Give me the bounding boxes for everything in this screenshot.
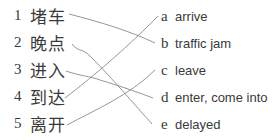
item-letter: a bbox=[161, 8, 175, 25]
left-item-3: 3 进入 bbox=[14, 57, 66, 81]
chinese-term: 堵车 bbox=[30, 3, 66, 28]
left-item-5: 5 离开 bbox=[14, 111, 66, 135]
right-item-d: d enter, come into bbox=[161, 86, 268, 108]
item-number: 5 bbox=[14, 115, 30, 132]
match-line-4-a bbox=[65, 16, 158, 98]
match-line-3-d bbox=[66, 71, 153, 98]
chinese-term: 离开 bbox=[30, 111, 66, 136]
left-item-4: 4 到达 bbox=[14, 84, 66, 108]
item-letter: d bbox=[161, 89, 175, 106]
matching-exercise: 1 堵车 2 晚点 3 进入 4 到达 5 离开 a arrive b traf… bbox=[0, 0, 278, 140]
item-letter: e bbox=[161, 116, 175, 133]
item-letter: b bbox=[161, 35, 175, 52]
chinese-term: 到达 bbox=[30, 84, 66, 109]
right-item-b: b traffic jam bbox=[161, 32, 231, 54]
chinese-term: 晚点 bbox=[30, 30, 66, 55]
item-letter: c bbox=[161, 62, 175, 79]
english-meaning: arrive bbox=[175, 9, 208, 24]
match-line-1-b bbox=[69, 14, 155, 43]
right-item-e: e delayed bbox=[161, 113, 221, 135]
item-number: 4 bbox=[14, 88, 30, 105]
left-item-1: 1 堵车 bbox=[14, 3, 66, 27]
right-item-a: a arrive bbox=[161, 5, 208, 27]
english-meaning: traffic jam bbox=[175, 36, 231, 51]
left-item-2: 2 晚点 bbox=[14, 30, 66, 54]
item-number: 2 bbox=[14, 34, 30, 51]
english-meaning: enter, come into bbox=[175, 90, 268, 105]
english-meaning: leave bbox=[175, 63, 206, 78]
english-meaning: delayed bbox=[175, 117, 221, 132]
item-number: 1 bbox=[14, 7, 30, 24]
item-number: 3 bbox=[14, 61, 30, 78]
chinese-term: 进入 bbox=[30, 57, 66, 82]
right-item-c: c leave bbox=[161, 59, 206, 81]
